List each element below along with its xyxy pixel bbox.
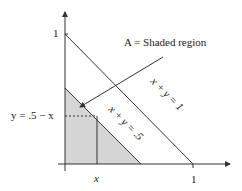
x-tick-label-1: 1 <box>191 173 197 185</box>
x-tick-label-x: x <box>93 172 99 184</box>
diagram-canvas: 1 1 x y = .5 − x A = Shaded region x + y… <box>0 0 242 191</box>
height-label: y = .5 − x <box>11 109 54 121</box>
outer-line-label: x + y = 1 <box>148 74 186 112</box>
region-label: A = Shaded region <box>124 36 207 48</box>
y-tick-label-1: 1 <box>53 27 59 39</box>
